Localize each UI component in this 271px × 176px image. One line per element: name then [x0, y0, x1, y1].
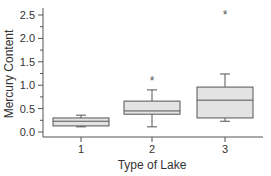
x-axis: 123 — [43, 137, 263, 155]
y-tick-label: 0.5 — [20, 103, 35, 115]
boxes: ** — [53, 8, 253, 127]
box-category-3: * — [197, 8, 253, 121]
y-tick-label: 2.0 — [20, 32, 35, 44]
x-tick-label: 2 — [149, 143, 155, 155]
x-tick-label: 1 — [78, 143, 84, 155]
outlier-marker: * — [150, 74, 155, 88]
x-tick-label: 3 — [222, 143, 228, 155]
box-plot-chart: 0.00.51.01.52.02.5 123 ** Type of Lake M… — [0, 0, 271, 176]
y-tick-label: 0.0 — [20, 126, 35, 138]
y-axis-title: Mercury Content — [2, 29, 16, 118]
y-tick-label: 1.0 — [20, 79, 35, 91]
box-category-1 — [53, 115, 109, 127]
y-tick-label: 1.5 — [20, 56, 35, 68]
x-axis-title: Type of Lake — [118, 158, 187, 172]
y-tick-label: 2.5 — [20, 9, 35, 21]
outlier-marker: * — [223, 8, 228, 22]
y-axis: 0.00.51.01.52.02.5 — [20, 8, 43, 138]
box-category-2: * — [124, 74, 180, 127]
